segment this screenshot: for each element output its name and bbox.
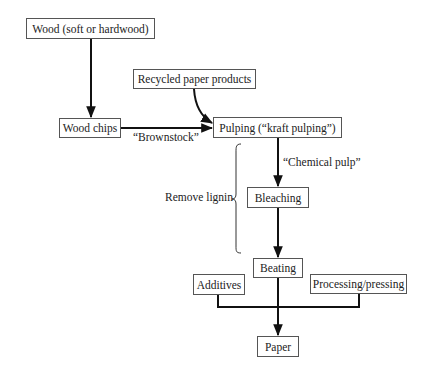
- edge-label-brownstock: “Brownstock”: [133, 131, 199, 143]
- node-bleaching: Bleaching: [247, 187, 309, 208]
- remove-lignin-brace: [232, 144, 241, 253]
- node-processing-pressing: Processing/pressing: [310, 274, 407, 294]
- node-pulping: Pulping (“kraft pulping”): [213, 117, 342, 138]
- paper-making-flowchart: Wood (soft or hardwood) Recycled paper p…: [0, 0, 430, 373]
- join-additives-processing: [218, 294, 359, 307]
- node-wood-chips: Wood chips: [59, 118, 121, 138]
- node-recycled-paper-products: Recycled paper products: [133, 69, 256, 89]
- annotation-remove-lignin: Remove lignin: [165, 191, 233, 203]
- node-beating: Beating: [253, 258, 303, 278]
- node-paper: Paper: [257, 336, 299, 357]
- connector-lines: [0, 0, 430, 373]
- node-wood: Wood (soft or hardwood): [26, 18, 155, 39]
- edge-label-chemical-pulp: “Chemical pulp”: [283, 156, 361, 168]
- node-additives: Additives: [193, 274, 245, 295]
- arrow-recycled-to-pulping: [194, 89, 212, 123]
